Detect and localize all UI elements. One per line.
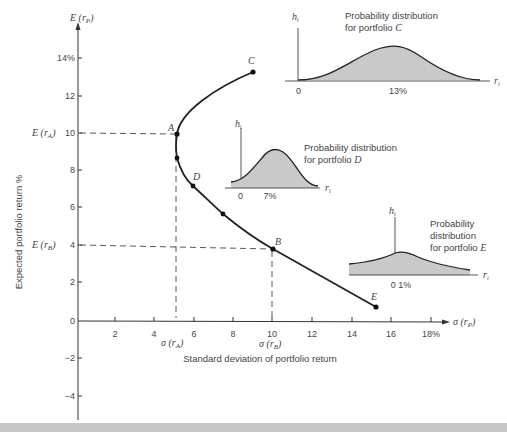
point-c	[250, 69, 255, 74]
point-b	[270, 246, 275, 251]
inset-d-mean: 7%	[263, 191, 276, 201]
point-a	[174, 131, 179, 136]
y-tick-label: 2	[70, 277, 75, 287]
y-tick-label: 10	[65, 128, 75, 138]
x-tick-label: 14	[347, 329, 357, 339]
y-tick-label: 6	[70, 202, 75, 212]
x-tick-label: 12	[307, 329, 317, 339]
y-tick-label: 4	[70, 240, 75, 250]
y-axis-symbol: E (rP)	[69, 12, 94, 25]
inset-e-mean: 0 1%	[391, 280, 412, 290]
y-tick-label: −2	[65, 353, 75, 363]
point-mid	[221, 212, 226, 217]
inset-c-zero: 0	[296, 86, 301, 96]
sigma-a-label: σ (rA)	[161, 337, 184, 350]
inset-portfolio-d: hi ri 0 7% Probability distribution for …	[225, 118, 397, 201]
era-label: E (rA)	[31, 127, 56, 140]
label-a: A	[167, 122, 175, 133]
x-tick-label: 16	[386, 329, 396, 339]
label-d: D	[192, 171, 201, 182]
efficient-frontier-chart: E (rP) 14% 12 10 8 6 4 2 0 −2 −4 Expecte…	[0, 0, 507, 432]
page-footer-bar	[0, 423, 507, 432]
inset-c-h-label: hi	[292, 11, 299, 23]
x-tick-label: 18%	[422, 329, 440, 339]
inset-d-r-label: ri	[325, 182, 331, 194]
y-axis: E (rP) 14% 12 10 8 6 4 2 0 −2 −4 Expecte…	[13, 12, 94, 420]
inset-c-mean: 13%	[389, 86, 407, 96]
inset-d-h-label: hi	[235, 118, 242, 130]
inset-e-title: Probability	[430, 218, 475, 229]
erb-label: E (rB)	[31, 239, 56, 252]
inset-e-title-2: distribution	[430, 230, 476, 241]
inset-c-r-label: ri	[494, 75, 500, 87]
inset-d-zero: 0	[238, 191, 243, 201]
y-tick-label: 14%	[57, 53, 75, 63]
inset-c-title: Probability distribution	[345, 10, 438, 21]
x-tick-label: 4	[151, 329, 156, 339]
inset-e-subtitle: for portfolio E	[430, 242, 486, 253]
inset-d-title: Probability distribution	[304, 142, 397, 153]
label-c: C	[248, 55, 255, 66]
inset-c-subtitle: for portfolio C	[345, 22, 402, 33]
x-ticks: 2 4 6 8 10 12 14 16 18%	[112, 317, 440, 339]
inset-portfolio-e: hi ri 0 1% Probability distribution for …	[349, 205, 489, 290]
x-tick-label: 6	[191, 329, 196, 339]
x-axis-symbol: σ (rP)	[453, 316, 476, 329]
inset-e-r-label: ri	[483, 269, 489, 281]
label-b: B	[275, 236, 281, 247]
x-axis-title: Standard deviation of portfolio return	[183, 353, 337, 364]
point-min-variance	[175, 156, 180, 161]
point-d	[191, 184, 196, 189]
y-tick-label: 0	[70, 316, 75, 326]
point-e	[373, 304, 378, 309]
label-e: E	[370, 291, 377, 302]
y-tick-label: 8	[70, 165, 75, 175]
x-tick-label: 2	[112, 329, 117, 339]
reference-lines	[80, 133, 272, 318]
inset-portfolio-c: hi ri 0 13% Probability distribution for…	[285, 10, 500, 96]
efficient-frontier-curve	[176, 72, 376, 307]
y-axis-title: Expected portfolio return %	[13, 174, 24, 289]
x-axis: σ (rP) 2 4 6 8 10 12 14 16 18% σ (rA) σ …	[78, 316, 476, 364]
inset-e-h-label: hi	[389, 205, 396, 217]
y-tick-label: −4	[65, 391, 75, 401]
inset-d-subtitle: for portfolio D	[304, 154, 362, 165]
y-tick-label: 12	[65, 91, 75, 101]
sigma-b-label: σ (rB)	[259, 338, 282, 351]
x-tick-label: 8	[230, 329, 235, 339]
frontier-points	[174, 69, 378, 309]
